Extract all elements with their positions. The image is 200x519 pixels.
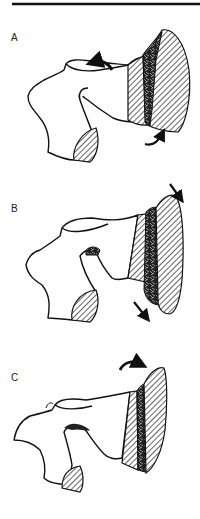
translation-arrow-icon [134,302,146,317]
panel-a: A [11,30,190,162]
panel-label-c: C [11,372,18,383]
panel-b: B [11,184,183,322]
rotation-arrow-icon [120,362,140,370]
panel-label-a: A [11,32,18,43]
rotation-arrow-icon [145,134,162,145]
figure: A B C [0,0,200,519]
panel-c: C [11,362,167,492]
panel-label-b: B [11,203,18,214]
